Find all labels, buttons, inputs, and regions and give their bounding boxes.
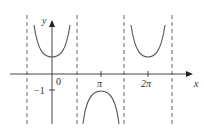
plot-canvas: y x 0 π 2π −1	[0, 0, 204, 135]
x-axis-label: x	[193, 78, 199, 89]
minus-one-label: −1	[34, 85, 45, 96]
branch-pi	[83, 91, 119, 124]
two-pi-label: 2π	[141, 78, 152, 89]
y-axis-label: y	[41, 15, 47, 26]
origin-label: 0	[56, 76, 61, 87]
pi-label: π	[97, 78, 103, 89]
x-axis-arrow-icon	[186, 71, 193, 77]
asymptotes	[27, 15, 172, 125]
sec-graph: y x 0 π 2π −1	[0, 0, 204, 135]
branch-two-pi	[131, 25, 165, 57]
y-axis-arrow-icon	[49, 20, 55, 27]
